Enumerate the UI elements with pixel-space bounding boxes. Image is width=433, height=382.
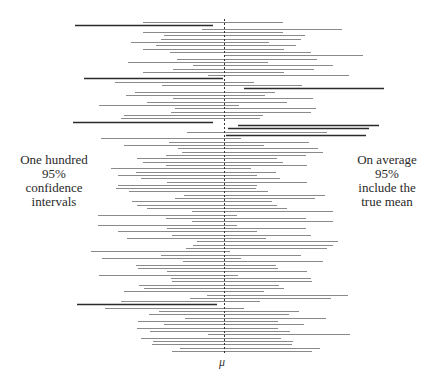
left-annotation-line: confidence	[4, 181, 104, 195]
mu-axis-label: μ	[219, 355, 225, 370]
interval-lines	[73, 23, 384, 352]
left-annotation-line: One hundred	[4, 153, 104, 167]
left-annotation-line: intervals	[4, 195, 104, 209]
right-annotation-line: true mean	[343, 195, 431, 209]
right-annotation-line: On average	[343, 153, 431, 167]
right-annotation-line: 95%	[343, 167, 431, 181]
right-annotation-line: include the	[343, 181, 431, 195]
right-annotation: On average 95% include the true mean	[343, 153, 431, 209]
left-annotation-line: 95%	[4, 167, 104, 181]
left-annotation: One hundred 95% confidence intervals	[4, 153, 104, 209]
